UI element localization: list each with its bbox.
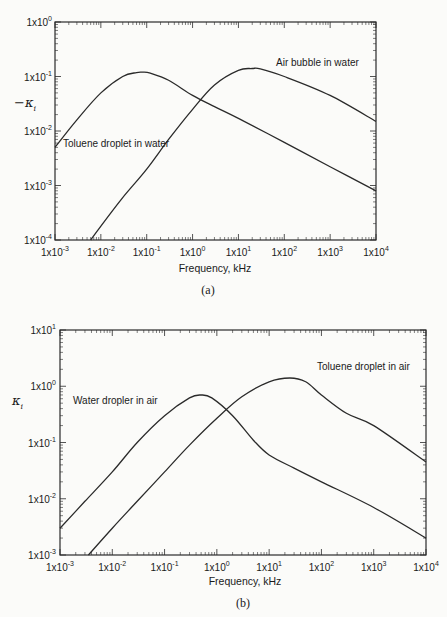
x-axis-title-a: Frequency, kHz xyxy=(179,262,252,274)
chart-panel-a: 1x1001x10-11x10-21x10-31x10-4 1x10-31x10… xyxy=(14,15,389,297)
y-axis-title-b: κi xyxy=(11,393,24,411)
x-tick-label: 1x101 xyxy=(226,245,252,258)
curve-label-water-air: Water dropler in air xyxy=(73,395,158,406)
x-tick-label: 1x100 xyxy=(180,245,206,258)
x-tick-label: 1x100 xyxy=(204,560,230,573)
curve-label-toluene-water: Toluene droplet in water xyxy=(63,138,170,149)
y-tick-label: 1x10-2 xyxy=(24,124,52,137)
caption-a: (a) xyxy=(201,283,214,297)
y-tick-label: 1x100 xyxy=(30,379,56,392)
x-tick-label: 1x101 xyxy=(256,560,282,573)
caption-b: (b) xyxy=(236,596,250,610)
y-tick-labels-a: 1x1001x10-11x10-21x10-31x10-4 xyxy=(24,15,52,246)
x-tick-label: 1x10-1 xyxy=(133,245,161,258)
y-tick-label: 1x10-3 xyxy=(24,179,52,192)
x-tick-label: 1x10-3 xyxy=(41,245,69,258)
y-tick-label: 1x10-4 xyxy=(24,233,52,246)
curve-toluene-droplet-in-water xyxy=(55,72,376,191)
x-tick-label: 1x10-2 xyxy=(98,560,126,573)
y-tick-label: 1x101 xyxy=(30,323,56,336)
x-axis-title-b: Frequency, kHz xyxy=(209,575,282,587)
x-tick-label: 1x104 xyxy=(363,245,389,258)
x-tick-label: 1x10-2 xyxy=(87,245,115,258)
plot-frame-a xyxy=(55,22,376,240)
x-tick-label: 1x104 xyxy=(413,560,439,573)
y-tick-label: 1x10-2 xyxy=(28,492,56,505)
curve-water-dropler-in-air xyxy=(60,395,426,538)
y-tick-label: 1x10-1 xyxy=(28,436,56,449)
y-axis-title-a: −κi xyxy=(14,95,36,113)
x-tick-label: 1x10-1 xyxy=(151,560,179,573)
y-tick-label: 1x10-1 xyxy=(24,70,52,83)
curve-label-toluene-air: Toluene droplet in air xyxy=(317,361,411,372)
x-tick-labels-a: 1x10-31x10-21x10-11x1001x1011x1021x1031x… xyxy=(41,245,389,258)
x-tick-label: 1x103 xyxy=(317,245,343,258)
y-tick-label: 1x100 xyxy=(26,15,52,28)
axis-ticks-a xyxy=(55,22,376,240)
x-tick-label: 1x10-3 xyxy=(46,560,74,573)
chart-panel-b: 1x1011x1001x10-11x10-21x10-3 1x10-31x10-… xyxy=(11,323,439,610)
x-tick-label: 1x102 xyxy=(271,245,297,258)
x-tick-labels-b: 1x10-31x10-21x10-11x1001x1011x1021x1031x… xyxy=(46,560,439,573)
figure: 1x1001x10-11x10-21x10-31x10-4 1x10-31x10… xyxy=(0,0,447,617)
y-tick-label: 1x10-3 xyxy=(28,548,56,561)
curves-a xyxy=(55,68,376,240)
x-tick-label: 1x102 xyxy=(309,560,335,573)
curve-label-air-bubble-water: Air bubble in water xyxy=(276,57,359,68)
curve-air-bubble-in-water xyxy=(91,68,376,240)
y-tick-labels-b: 1x1011x1001x10-11x10-21x10-3 xyxy=(28,323,56,561)
x-tick-label: 1x103 xyxy=(361,560,387,573)
